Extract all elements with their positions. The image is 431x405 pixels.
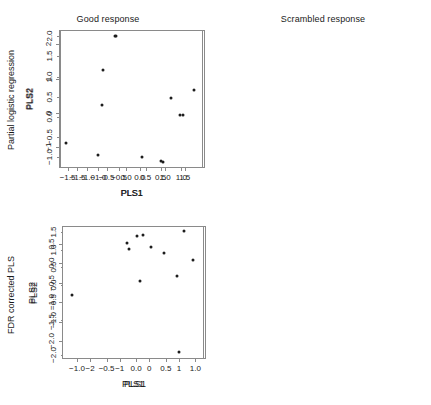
x-tick-label: 0.5 xyxy=(155,173,166,182)
x-tick-label: 0.0 xyxy=(131,364,142,373)
panel-title-top-right: Scrambled response xyxy=(215,14,431,24)
figure-root: Partial logistic regression FDR correcte… xyxy=(0,0,431,405)
x-tick xyxy=(77,168,78,171)
y-tick-label: −2.0 xyxy=(49,347,58,363)
y-tick-label: −1.5 xyxy=(47,314,56,330)
x-tick xyxy=(119,168,120,171)
data-point xyxy=(192,259,195,262)
data-point xyxy=(162,161,165,164)
y-tick xyxy=(57,157,60,158)
data-point xyxy=(176,275,179,278)
x-tick-label: −1 xyxy=(115,364,124,373)
x-tick xyxy=(149,359,150,362)
y-tick xyxy=(59,263,62,264)
y-tick-label: 1.0 xyxy=(45,71,54,82)
y-tick-label: 1.5 xyxy=(49,227,58,238)
x-tick xyxy=(126,168,127,171)
y-tick-label: 0.0 xyxy=(47,258,56,269)
y-tick-label: −1.0 xyxy=(47,294,56,310)
x-tick-label: 1 xyxy=(177,364,181,373)
x-tick-label: 0.5 xyxy=(160,364,171,373)
data-point xyxy=(141,233,144,236)
y-axis-title: PLS2 xyxy=(25,88,35,110)
y-tick xyxy=(57,117,60,118)
y-tick-label: 0.5 xyxy=(47,238,56,249)
data-point xyxy=(71,294,74,297)
y-tick xyxy=(59,302,62,303)
data-point xyxy=(140,155,143,158)
x-tick-label: 1.0 xyxy=(190,364,201,373)
y-tick xyxy=(56,79,59,80)
y-tick xyxy=(59,283,62,284)
plot-frame-top-right xyxy=(60,30,203,168)
y-tick xyxy=(57,36,60,37)
data-point xyxy=(135,234,138,237)
x-tick xyxy=(87,168,88,171)
x-tick-label: −0.5 xyxy=(111,173,127,182)
data-point xyxy=(192,88,195,91)
x-tick-label: 0.0 xyxy=(134,173,145,182)
x-tick xyxy=(161,168,162,171)
x-tick-label: −1.5 xyxy=(70,173,86,182)
y-tick xyxy=(59,341,62,342)
data-point xyxy=(128,248,131,251)
data-point xyxy=(126,241,129,244)
y-tick xyxy=(57,97,60,98)
x-tick-label: −1.0 xyxy=(69,364,85,373)
x-tick-label: −0.5 xyxy=(99,364,115,373)
y-tick-label: 1.5 xyxy=(45,51,54,62)
data-point xyxy=(101,104,104,107)
data-point xyxy=(102,68,105,71)
y-tick-label: 2 xyxy=(44,42,53,46)
y-tick-label: −0.5 xyxy=(47,275,56,291)
data-point xyxy=(163,251,166,254)
panel-top-right: Scrambled response−1.5−1.0−0.50.00.51.0−… xyxy=(215,0,431,203)
y-axis-title: PLS2 xyxy=(27,281,37,303)
data-point xyxy=(170,96,173,99)
x-axis-title: PLS1 xyxy=(120,188,142,198)
x-tick xyxy=(166,359,167,362)
y-tick-label: 0.5 xyxy=(45,91,54,102)
x-tick-label: 0 xyxy=(147,364,151,373)
x-tick xyxy=(107,359,108,362)
data-point xyxy=(139,280,142,283)
x-tick xyxy=(90,359,91,362)
x-tick xyxy=(185,168,186,171)
data-point xyxy=(114,35,117,38)
x-tick xyxy=(140,168,141,171)
data-point xyxy=(149,246,152,249)
y-tick xyxy=(56,147,59,148)
x-tick xyxy=(68,168,69,171)
y-tick xyxy=(56,44,59,45)
x-tick xyxy=(165,168,166,171)
y-tick-label: −0.5 xyxy=(45,129,54,145)
data-point xyxy=(97,154,100,157)
x-tick xyxy=(77,359,78,362)
x-tick xyxy=(120,359,121,362)
y-tick-label: 0.0 xyxy=(45,111,54,122)
data-point xyxy=(177,350,180,353)
x-tick xyxy=(136,359,137,362)
panel-bottom-right: −2−101−2.0−1.5−1.0−0.50.00.5PLS1PLS2 xyxy=(215,200,431,405)
x-tick-label: −1.0 xyxy=(90,173,106,182)
y-tick xyxy=(56,113,59,114)
data-point xyxy=(183,230,186,233)
x-axis-title: PLS1 xyxy=(122,379,144,389)
y-tick-label: −2.0 xyxy=(47,333,56,349)
x-tick xyxy=(179,359,180,362)
y-tick xyxy=(59,244,62,245)
x-tick xyxy=(146,168,147,171)
y-tick xyxy=(59,322,62,323)
x-tick-label: −2 xyxy=(86,364,95,373)
data-point xyxy=(182,113,185,116)
y-tick-label: −1.0 xyxy=(45,149,54,165)
panel-title-top-left: Good response xyxy=(0,14,216,24)
data-point xyxy=(64,141,67,144)
x-tick xyxy=(98,168,99,171)
plot-frame-bottom-right xyxy=(62,226,204,359)
x-tick xyxy=(195,359,196,362)
y-tick xyxy=(57,56,60,57)
x-tick xyxy=(107,168,108,171)
x-tick xyxy=(181,168,182,171)
y-tick-label: 2.0 xyxy=(45,31,54,42)
